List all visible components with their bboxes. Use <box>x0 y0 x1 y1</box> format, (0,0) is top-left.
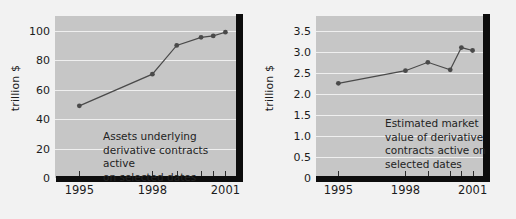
y-tick-label: 2.5 <box>264 66 311 79</box>
data-point-marker <box>336 81 341 86</box>
data-point-marker <box>199 35 204 40</box>
annotation-text-right: Estimated market value of derivative con… <box>385 117 489 171</box>
x-tick-label: 1998 <box>138 183 167 197</box>
annotation-text-left: Assets underlying derivative contracts a… <box>103 130 243 184</box>
x-tick-mark <box>450 171 451 176</box>
y-tick-label: 20 <box>6 142 50 155</box>
data-point-marker <box>223 30 228 35</box>
y-tick-label: 0.5 <box>264 150 311 163</box>
data-point-marker <box>150 72 155 77</box>
x-tick-mark <box>428 171 429 176</box>
data-point-marker <box>403 68 408 73</box>
y-tick-label: 3.0 <box>264 45 311 58</box>
y-tick-label: 0 <box>264 172 311 185</box>
data-point-marker <box>459 45 464 50</box>
x-tick-mark <box>473 171 474 176</box>
y-tick-label: 40 <box>6 113 50 126</box>
chart-panel-right: trillion $ 00.51.01.52.02.53.03.5 199519… <box>258 0 516 219</box>
data-point-marker <box>425 60 430 65</box>
bottom-axis-right-panel <box>316 176 490 182</box>
y-tick-label: 100 <box>6 24 50 37</box>
y-tick-label: 2.0 <box>264 87 311 100</box>
x-tick-label: 2001 <box>458 183 487 197</box>
x-tick-mark <box>405 171 406 176</box>
y-axis-tick-labels-left: 020406080100 <box>0 0 50 219</box>
data-point-marker <box>174 43 179 48</box>
x-tick-label: 1995 <box>324 183 353 197</box>
two-panel-line-chart-figure: trillion $ 020406080100 199519982001 Ass… <box>0 0 516 219</box>
y-axis-tick-labels-right: 00.51.01.52.02.53.03.5 <box>258 0 311 219</box>
y-tick-label: 3.5 <box>264 24 311 37</box>
y-tick-label: 0 <box>6 172 50 185</box>
y-tick-label: 1.5 <box>264 108 311 121</box>
x-tick-mark <box>338 171 339 176</box>
series-line <box>79 32 225 106</box>
data-point-marker <box>470 48 475 53</box>
chart-panel-left: trillion $ 020406080100 199519982001 Ass… <box>0 0 258 219</box>
x-tick-label: 1995 <box>65 183 94 197</box>
x-tick-mark <box>79 171 80 176</box>
y-tick-label: 80 <box>6 54 50 67</box>
y-tick-label: 60 <box>6 83 50 96</box>
x-tick-label: 1998 <box>391 183 420 197</box>
series-line <box>338 48 472 84</box>
x-tick-mark <box>461 171 462 176</box>
data-point-marker <box>77 103 82 108</box>
x-tick-label: 2001 <box>211 183 240 197</box>
data-point-marker <box>211 33 216 38</box>
y-tick-label: 1.0 <box>264 129 311 142</box>
data-point-marker <box>448 67 453 72</box>
